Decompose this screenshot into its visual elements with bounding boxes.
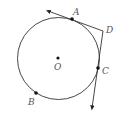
point-b bbox=[34, 91, 38, 95]
label-d: D bbox=[105, 25, 113, 35]
point-c bbox=[96, 66, 100, 70]
label-c: C bbox=[102, 66, 109, 76]
geometry-diagram: A B C D O bbox=[0, 0, 123, 118]
point-o bbox=[56, 56, 59, 59]
label-a: A bbox=[72, 7, 80, 17]
label-o: O bbox=[54, 62, 62, 72]
point-a bbox=[70, 17, 74, 21]
label-b: B bbox=[27, 97, 35, 107]
